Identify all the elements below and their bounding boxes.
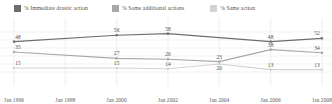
data-label: 27 [114,50,120,56]
x-tick-label: Jan 2000 [107,97,127,103]
x-tick: Jan 2000 [107,88,127,104]
x-tick-label: Jan 2004 [209,97,229,103]
data-label: 56 [114,27,120,33]
data-label: 15 [114,60,120,66]
x-tick-label: Jan 2006 [261,97,281,103]
x-tick: Jan 1998 [55,88,75,104]
data-label: 26 [165,51,171,57]
legend-item-some-additional-actions[interactable]: % Some additional actions [112,5,184,12]
data-label: 38 [268,42,274,48]
data-label: 20 [217,65,223,71]
data-label: 58 [165,26,171,32]
data-label: 13 [268,62,274,68]
x-tick-label: Jan 1996 [4,97,24,103]
data-label: 48 [15,34,21,40]
data-label: 15 [15,60,21,66]
chart-legend: % Immediate drastic action % Some additi… [0,0,332,16]
x-tick-label: Jan 1998 [55,97,75,103]
legend-item-same-action[interactable]: % Same action [210,5,255,12]
plot-area: 4856584852352726233834151514201313 [0,18,332,86]
data-label: 34 [314,45,320,51]
x-tick: Jan 2002 [158,88,178,104]
legend-label-immediate-drastic-action: % Immediate drastic action [24,5,88,12]
data-label: 35 [15,44,21,50]
x-tick-label: Jan 2002 [158,97,178,103]
legend-label-same-action: % Same action [220,5,255,12]
x-tick: Jan 2006 [261,88,281,104]
x-tick: Jan 2008 [312,88,332,104]
data-label: 14 [165,61,171,67]
data-label: 13 [314,62,320,68]
legend-swatch-same-action [210,5,217,12]
x-tick-label: Jan 2008 [312,97,332,103]
legend-swatch-some-additional-actions [112,5,119,12]
x-tick: Jan 2004 [209,88,229,104]
data-label: 23 [217,54,223,60]
x-axis: Jan 1996Jan 1998Jan 2000Jan 2002Jan 2004… [0,86,332,104]
legend-swatch-immediate-drastic-action [14,5,21,12]
data-label: 52 [314,30,320,36]
legend-label-some-additional-actions: % Some additional actions [122,5,184,12]
data-label: 48 [268,34,274,40]
line-chart: % Immediate drastic action % Some additi… [0,0,332,104]
x-tick: Jan 1996 [4,88,24,104]
legend-item-immediate-drastic-action[interactable]: % Immediate drastic action [14,5,88,12]
